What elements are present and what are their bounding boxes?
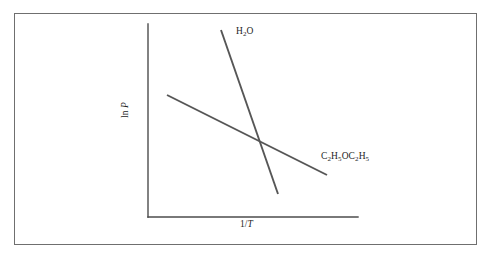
y-axis-label: ln P xyxy=(120,102,130,118)
water-label-suffix: O xyxy=(247,26,254,36)
ether-label-part4: H xyxy=(359,151,366,161)
series-label-ether: C2H5OC2H5 xyxy=(321,151,369,163)
ether-label-part2: H xyxy=(331,151,338,161)
x-axis-label-prefix: 1/ xyxy=(240,219,248,229)
ether-label-part3: OC xyxy=(342,151,355,161)
x-axis-label-variable: T xyxy=(248,219,253,229)
x-axis-label: 1/T xyxy=(240,219,253,229)
figure-root: H2O C2H5OC2H5 1/T ln P xyxy=(0,0,490,262)
y-axis-label-prefix: ln xyxy=(120,108,130,118)
y-axis-label-variable: P xyxy=(120,102,130,108)
series-label-water: H2O xyxy=(236,26,254,38)
ether-label-sub4: 5 xyxy=(366,155,370,163)
plot-area: H2O C2H5OC2H5 1/T ln P xyxy=(0,0,490,262)
series-line-water xyxy=(221,30,278,194)
water-label-prefix: H xyxy=(236,26,243,36)
